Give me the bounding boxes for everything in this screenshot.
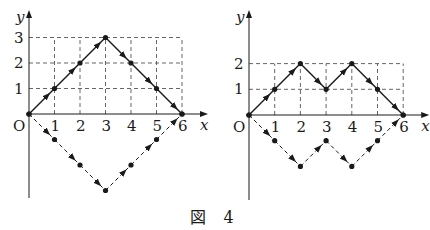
lattice-point xyxy=(401,112,406,117)
x-tick-label: 3 xyxy=(102,117,112,135)
x-tick-label: 4 xyxy=(127,117,137,135)
lattice-point xyxy=(103,188,108,193)
x-tick-label: 5 xyxy=(374,118,384,136)
origin-label: O xyxy=(13,117,25,135)
dashed-path-segment xyxy=(326,141,352,167)
lattice-point xyxy=(349,61,354,66)
y-tick-label: 1 xyxy=(14,80,24,98)
lattice-point xyxy=(52,86,57,91)
x-tick-label: 5 xyxy=(153,117,163,135)
lattice-point xyxy=(154,137,159,142)
y-tick-label: 1 xyxy=(234,80,244,98)
x-tick-label: 6 xyxy=(399,118,409,136)
dashed-path-segment xyxy=(352,141,378,167)
dashed-path-segment xyxy=(300,141,326,167)
y-axis-arrow-icon xyxy=(246,10,252,18)
figure-caption: 図 4 xyxy=(0,204,430,228)
figure-canvas: yxO123456123yxO12345612 xyxy=(0,0,430,230)
x-axis-label: x xyxy=(421,117,430,135)
lattice-point xyxy=(246,112,251,117)
lattice-point xyxy=(154,86,159,91)
x-tick-label: 3 xyxy=(322,118,332,136)
diagram-left: yxO123456123 xyxy=(13,8,209,198)
lattice-point xyxy=(298,61,303,66)
lattice-point xyxy=(128,162,133,167)
origin-label: O xyxy=(233,118,245,136)
lattice-point xyxy=(128,60,133,65)
lattice-point xyxy=(77,162,82,167)
x-tick-label: 4 xyxy=(348,118,358,136)
diagram-right: yxO12345612 xyxy=(233,8,430,200)
y-tick-label: 2 xyxy=(14,54,24,72)
y-axis-label: y xyxy=(235,8,245,26)
x-axis-label: x xyxy=(200,116,209,134)
x-tick-label: 1 xyxy=(51,117,61,135)
lattice-point xyxy=(77,60,82,65)
lattice-point xyxy=(324,138,329,143)
lattice-point xyxy=(298,164,303,169)
lattice-point xyxy=(375,138,380,143)
lattice-point xyxy=(272,87,277,92)
y-tick-label: 2 xyxy=(234,55,244,73)
y-axis-arrow-icon xyxy=(26,10,32,18)
x-tick-label: 2 xyxy=(296,118,306,136)
dashed-path-segment xyxy=(275,141,301,167)
lattice-point xyxy=(272,138,277,143)
lattice-point xyxy=(349,164,354,169)
lattice-point xyxy=(52,137,57,142)
y-tick-label: 3 xyxy=(14,29,24,47)
lattice-point xyxy=(179,111,184,116)
x-tick-label: 2 xyxy=(76,117,86,135)
y-axis-label: y xyxy=(15,8,25,26)
lattice-point xyxy=(103,35,108,40)
lattice-point xyxy=(324,87,329,92)
x-tick-label: 6 xyxy=(178,117,188,135)
x-tick-label: 1 xyxy=(271,118,281,136)
lattice-point xyxy=(26,111,31,116)
lattice-point xyxy=(375,87,380,92)
